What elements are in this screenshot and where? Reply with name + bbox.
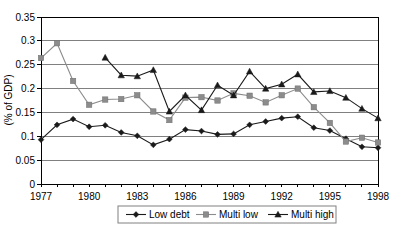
data-point-2-11 <box>279 81 285 87</box>
y-tick-label-2: 0.1 <box>21 131 35 142</box>
data-point-1-3 <box>86 102 91 107</box>
y-tick-label-3: 0.15 <box>16 107 36 118</box>
data-point-1-13 <box>247 93 252 98</box>
x-tick-label-0: 1977 <box>30 191 53 202</box>
legend-marker-1 <box>203 212 208 217</box>
data-point-1-16 <box>295 86 300 91</box>
y-tick-label-7: 0.35 <box>16 12 36 23</box>
data-point-1-11 <box>215 98 220 103</box>
x-tick-label-3: 1986 <box>174 191 197 202</box>
data-point-0-13 <box>247 122 253 128</box>
data-point-2-15 <box>343 94 349 100</box>
data-point-2-9 <box>246 68 252 74</box>
data-point-1-18 <box>327 120 332 125</box>
data-point-0-5 <box>118 130 124 136</box>
data-point-0-3 <box>86 124 92 130</box>
data-point-1-4 <box>102 97 107 102</box>
legend-label-2: Multi high <box>291 209 334 220</box>
x-tick-label-5: 1992 <box>271 191 294 202</box>
data-point-1-7 <box>151 109 156 114</box>
data-point-1-21 <box>375 140 380 145</box>
y-tick-label-0: 0 <box>29 179 35 190</box>
data-point-1-19 <box>343 139 348 144</box>
data-point-2-7 <box>214 82 220 88</box>
data-point-0-9 <box>183 127 189 133</box>
data-point-1-14 <box>263 100 268 105</box>
y-tick-label-5: 0.25 <box>16 59 36 70</box>
chart-container: 00.050.10.150.20.250.30.3519771980198319… <box>0 0 406 233</box>
legend-label-0: Low debt <box>149 209 190 220</box>
data-point-1-15 <box>279 93 284 98</box>
x-tick-label-6: 1995 <box>319 191 342 202</box>
data-point-0-7 <box>150 142 156 148</box>
data-point-0-10 <box>199 128 205 134</box>
data-point-1-20 <box>359 135 364 140</box>
data-point-1-17 <box>311 104 316 109</box>
x-tick-label-2: 1983 <box>126 191 149 202</box>
y-axis-title: (% of GDP) <box>3 74 14 125</box>
data-point-1-2 <box>70 78 75 83</box>
y-tick-label-1: 0.05 <box>16 155 36 166</box>
data-point-0-14 <box>263 119 269 125</box>
x-tick-label-4: 1989 <box>222 191 245 202</box>
data-point-0-6 <box>134 133 140 139</box>
data-point-1-10 <box>199 94 204 99</box>
data-point-2-0 <box>102 54 108 60</box>
data-point-1-6 <box>135 93 140 98</box>
data-point-2-3 <box>150 67 156 73</box>
line-chart: 00.050.10.150.20.250.30.3519771980198319… <box>0 0 406 233</box>
data-point-1-1 <box>54 41 59 46</box>
series-line-2 <box>105 58 378 119</box>
x-tick-label-1: 1980 <box>78 191 101 202</box>
data-point-0-15 <box>279 115 285 121</box>
data-point-1-0 <box>38 55 43 60</box>
data-point-0-2 <box>70 116 76 122</box>
data-point-0-21 <box>375 145 381 151</box>
data-point-0-20 <box>359 144 365 150</box>
data-point-2-16 <box>359 105 365 111</box>
legend-label-1: Multi low <box>219 209 259 220</box>
y-tick-label-6: 0.3 <box>21 35 35 46</box>
data-point-1-8 <box>167 117 172 122</box>
x-tick-label-7: 1998 <box>367 191 390 202</box>
data-point-1-5 <box>119 96 124 101</box>
data-point-0-18 <box>327 128 333 134</box>
data-point-0-4 <box>102 122 108 128</box>
data-point-2-17 <box>375 115 381 121</box>
data-point-2-12 <box>295 71 301 77</box>
y-tick-label-4: 0.2 <box>21 83 35 94</box>
data-point-0-8 <box>166 136 172 142</box>
